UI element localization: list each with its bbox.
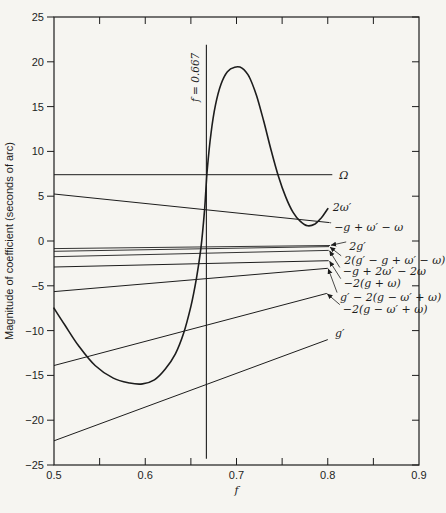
x-tick-label: 0.9 bbox=[411, 469, 426, 481]
y-tick-label: −25 bbox=[25, 459, 44, 471]
y-tick-label: 15 bbox=[32, 101, 44, 113]
y-tick-label: 20 bbox=[32, 56, 44, 68]
y-tick-label: −10 bbox=[25, 325, 44, 337]
annotation-neg-2-g-minus-wp-plus-w-label: −2(g − ω′ + ω) bbox=[343, 303, 428, 316]
annotation-gp-label: g′ bbox=[335, 327, 345, 340]
reference-line-label: f = 0.667 bbox=[189, 52, 201, 103]
annotation-neg-g-plus-wp-minus-w-label: −g + ω′ − ω bbox=[334, 221, 403, 234]
y-tick-label: 10 bbox=[32, 145, 44, 157]
x-tick-label: 0.8 bbox=[320, 469, 335, 481]
annotation-neg-2-g-plus-w-label: −2(g + ω) bbox=[344, 277, 401, 290]
x-tick-label: 0.7 bbox=[229, 469, 244, 481]
y-tick-label: −20 bbox=[25, 414, 44, 426]
y-axis-title: Magnitude of coefficient (seconds of arc… bbox=[3, 142, 15, 340]
x-tick-label: 0.6 bbox=[138, 469, 153, 481]
y-tick-label: 5 bbox=[38, 190, 44, 202]
y-tick-label: 0 bbox=[38, 235, 44, 247]
y-tick-label: −15 bbox=[25, 369, 44, 381]
x-tick-label: 0.5 bbox=[46, 469, 61, 481]
coefficient-magnitude-chart: 0.50.60.70.80.9−25−20−15−10−50510152025f… bbox=[0, 0, 446, 513]
annotation-gp-minus-2-g-minus-wp-plus-w-label: g′ − 2(g − ω′ + ω) bbox=[340, 291, 441, 304]
y-tick-label: −5 bbox=[31, 280, 44, 292]
figure-scan: 0.50.60.70.80.9−25−20−15−10−50510152025f… bbox=[0, 0, 446, 513]
annotation-two-wp-label: 2ω′ bbox=[332, 201, 352, 214]
annotation-two-gp-label: 2g′ bbox=[348, 240, 366, 253]
y-tick-label: 25 bbox=[32, 11, 44, 23]
annotation-omega-label: Ω bbox=[338, 169, 348, 182]
